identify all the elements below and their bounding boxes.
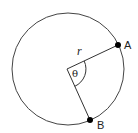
radius-to-b bbox=[67, 69, 90, 120]
radius-to-a bbox=[67, 45, 118, 69]
point-a bbox=[115, 42, 121, 48]
point-a-label: A bbox=[124, 39, 132, 51]
radius-label: r bbox=[77, 44, 82, 58]
point-b bbox=[87, 117, 93, 123]
angle-label: θ bbox=[72, 68, 78, 79]
point-b-label: B bbox=[97, 119, 104, 131]
circle-diagram: A B r θ bbox=[0, 0, 138, 133]
